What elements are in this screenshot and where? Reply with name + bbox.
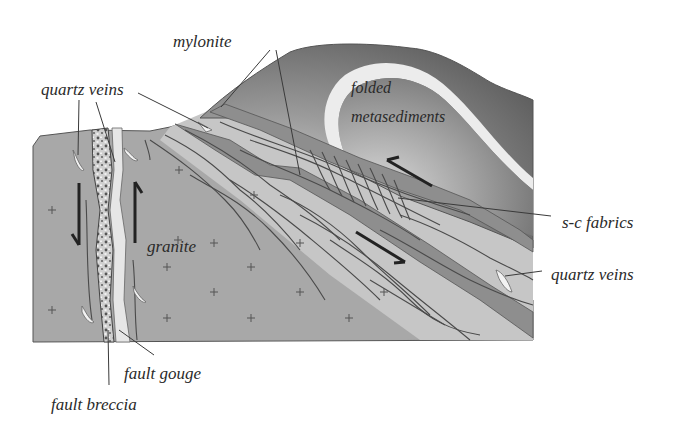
label-fault-breccia: fault breccia xyxy=(51,395,137,414)
label-fault-gouge: fault gouge xyxy=(124,364,201,383)
fault-zone-cross-section: mylonite quartz veins folded metasedimen… xyxy=(0,0,675,444)
label-mylonite: mylonite xyxy=(173,32,232,51)
label-folded: folded xyxy=(351,79,392,97)
label-quartz-veins-right: quartz veins xyxy=(551,265,634,284)
label-quartz-veins-left: quartz veins xyxy=(41,80,124,99)
label-granite: granite xyxy=(147,237,197,256)
label-metasediments: metasediments xyxy=(351,108,445,125)
label-sc-fabrics: s-c fabrics xyxy=(562,213,634,232)
